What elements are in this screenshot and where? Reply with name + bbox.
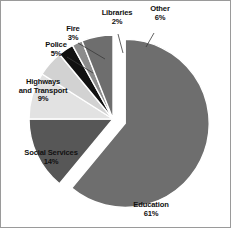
slice-label-libraries-pct: 2% <box>96 18 138 27</box>
slice-label-social-services-pct: 14% <box>13 158 89 167</box>
slice-label-other-pct: 6% <box>143 14 177 23</box>
slice-label-libraries-name: Libraries <box>102 8 133 17</box>
slice-label-libraries: Libraries 2% <box>96 9 138 26</box>
pie-slices-group <box>29 35 209 207</box>
slice-label-education-pct: 61% <box>121 210 181 219</box>
slice-label-police-name: Police <box>45 40 66 49</box>
slice-label-social-services: Social Services 14% <box>13 149 89 166</box>
pie-chart: Libraries 2% Other 6% Fire 3% Police 5% … <box>1 1 231 228</box>
slice-label-other: Other 6% <box>143 5 177 22</box>
pie-chart-svg <box>1 1 231 228</box>
slice-label-social-services-name: Social Services <box>24 148 77 157</box>
slice-label-education-name: Education <box>133 200 168 209</box>
slice-label-highways-pct: 9% <box>5 95 81 104</box>
slice-label-police: Police 5% <box>37 41 75 58</box>
slice-label-other-name: Other <box>150 4 170 13</box>
chart-frame: Libraries 2% Other 6% Fire 3% Police 5% … <box>0 0 231 228</box>
leader-line-libraries <box>118 34 123 53</box>
slice-label-highways: Highways and Transport 9% <box>5 78 81 104</box>
slice-label-education: Education 61% <box>121 201 181 218</box>
slice-label-fire-name: Fire <box>66 24 79 33</box>
slice-label-police-pct: 5% <box>37 50 75 59</box>
